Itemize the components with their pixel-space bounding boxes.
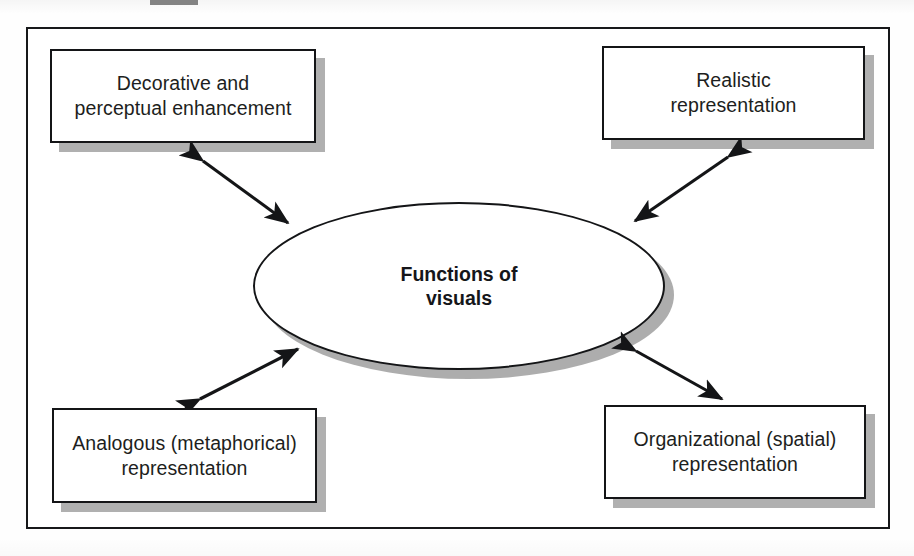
center-node-ellipse[interactable]: Functions of visuals	[253, 202, 665, 370]
center-node-label: Functions of visuals	[401, 262, 518, 310]
node-label-organizational: Organizational (spatial) representation	[634, 427, 837, 477]
node-label-decorative: Decorative and perceptual enhancement	[75, 71, 292, 121]
node-label-analogous: Analogous (metaphorical) representation	[72, 431, 297, 481]
node-realistic-representation[interactable]: Realistic representation	[602, 46, 865, 140]
node-analogous-metaphorical-representation[interactable]: Analogous (metaphorical) representation	[52, 408, 317, 503]
node-organizational-spatial-representation[interactable]: Organizational (spatial) representation	[604, 405, 866, 499]
scan-artifact-mark	[150, 0, 198, 5]
figure-canvas: Functions of visuals Decorative and perc…	[0, 0, 914, 556]
node-decorative-and-perceptual-enhancement[interactable]: Decorative and perceptual enhancement	[50, 49, 316, 143]
node-label-realistic: Realistic representation	[670, 68, 796, 118]
